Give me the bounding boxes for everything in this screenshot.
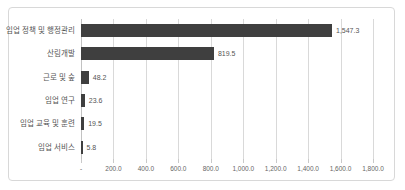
- tick-mark: [308, 159, 309, 163]
- tick-mark: [276, 159, 277, 163]
- bar-value-label: 1,547.3: [332, 24, 359, 37]
- tick-label: 600.0: [170, 165, 186, 172]
- category-label: 임업 서비스: [38, 136, 75, 159]
- tick-label: 1,200.0: [265, 165, 287, 172]
- plot-area: 1,547.3819.548.223.619.55.8: [81, 19, 373, 159]
- bar-value-label: 19.5: [84, 117, 102, 130]
- tick-mark: [211, 159, 212, 163]
- category-axis: 임업 정책 및 행정관리산림개발근로 및 숲임업 연구임업 교육 및 훈련임업 …: [9, 19, 79, 159]
- bar-row: 1,547.3: [81, 19, 373, 42]
- bar-row: 23.6: [81, 89, 373, 112]
- bar-value-label: 5.8: [83, 141, 97, 154]
- bar-value-label: 819.5: [214, 47, 236, 60]
- category-label: 근로 및 숲: [43, 66, 75, 89]
- tick-label: 200.0: [105, 165, 121, 172]
- tick-label: 1,800.0: [362, 165, 384, 172]
- tick-label: -: [80, 165, 82, 172]
- tick-mark: [243, 159, 244, 163]
- tick-mark: [373, 159, 374, 163]
- category-label: 임업 연구: [45, 89, 75, 112]
- tick-label: 1,600.0: [330, 165, 352, 172]
- bar-row: 48.2: [81, 66, 373, 89]
- bar-series: 1,547.3819.548.223.619.55.8: [81, 19, 373, 159]
- chart-container: 임업 정책 및 행정관리산림개발근로 및 숲임업 연구임업 교육 및 훈련임업 …: [8, 7, 395, 181]
- gridline: [373, 19, 374, 159]
- bar-value-label: 48.2: [89, 71, 107, 84]
- category-label: 산림개발: [47, 42, 75, 65]
- bar[interactable]: [81, 24, 332, 37]
- bar-value-label: 23.6: [85, 94, 103, 107]
- tick-mark: [341, 159, 342, 163]
- tick-mark: [81, 159, 82, 163]
- category-label: 임업 교육 및 훈련: [20, 112, 75, 135]
- bar-row: 19.5: [81, 112, 373, 135]
- bar[interactable]: [81, 71, 89, 84]
- category-label: 임업 정책 및 행정관리: [6, 19, 75, 42]
- bar-row: 5.8: [81, 136, 373, 159]
- tick-mark: [146, 159, 147, 163]
- tick-mark: [178, 159, 179, 163]
- tick-label: 1,400.0: [297, 165, 319, 172]
- tick-label: 800.0: [203, 165, 219, 172]
- tick-label: 400.0: [138, 165, 154, 172]
- bar[interactable]: [81, 47, 214, 60]
- tick-label: 1,000.0: [232, 165, 254, 172]
- tick-mark: [113, 159, 114, 163]
- bar-row: 819.5: [81, 42, 373, 65]
- value-axis: -200.0400.0600.0800.01,000.01,200.01,400…: [81, 159, 373, 179]
